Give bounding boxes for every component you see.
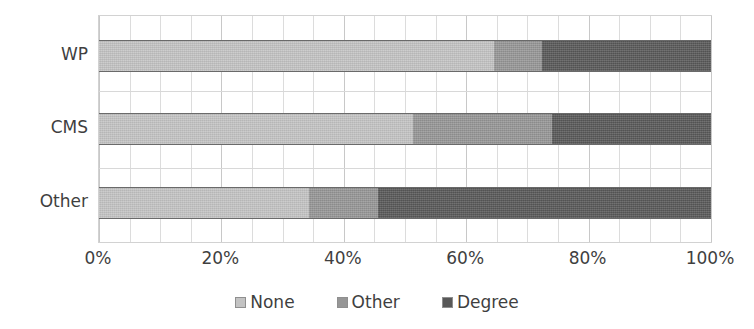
legend-label: Other (352, 292, 400, 312)
bar-segment-degree (552, 113, 711, 145)
y-axis-label-cms: CMS (8, 119, 88, 136)
bar-row (99, 187, 711, 219)
gridline-horizontal (99, 91, 711, 92)
bar-row (99, 40, 711, 72)
bar-segment-other (494, 40, 542, 72)
chart-legend: NoneOtherDegree (0, 292, 754, 312)
bar-segment-none (99, 187, 309, 219)
gridline-vertical (711, 16, 712, 242)
x-axis-tick-40: 40% (303, 250, 383, 267)
bar-segment-degree (378, 187, 711, 219)
bar-segment-other (413, 113, 552, 145)
x-axis-tick-60: 60% (425, 250, 505, 267)
legend-swatch-icon (442, 297, 453, 308)
x-axis-tick-100: 100% (670, 250, 750, 267)
legend-swatch-icon (337, 297, 348, 308)
legend-item-other[interactable]: Other (337, 292, 400, 312)
bar-segment-none (99, 113, 413, 145)
legend-item-degree[interactable]: Degree (442, 292, 519, 312)
bar-segment-none (99, 40, 494, 72)
legend-swatch-icon (235, 297, 246, 308)
bar-row (99, 113, 711, 145)
bar-segment-degree (542, 40, 711, 72)
y-axis-label-wp: WP (8, 46, 88, 63)
x-axis-tick-80: 80% (548, 250, 628, 267)
stacked-bar-chart: WPCMSOther 0%20%40%60%80%100% NoneOtherD… (0, 0, 754, 329)
legend-label: None (250, 292, 294, 312)
plot-area (98, 15, 712, 243)
x-axis-tick-20: 20% (180, 250, 260, 267)
legend-label: Degree (457, 292, 519, 312)
y-axis-label-other: Other (8, 193, 88, 210)
legend-item-none[interactable]: None (235, 292, 294, 312)
x-axis-tick-0: 0% (58, 250, 138, 267)
bar-segment-other (309, 187, 378, 219)
gridline-horizontal (99, 168, 711, 169)
